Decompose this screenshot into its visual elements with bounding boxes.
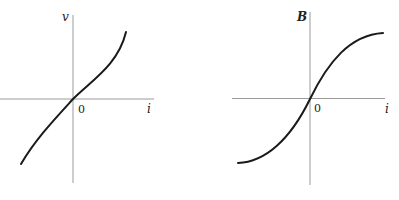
right-diagram: B 0 i <box>232 10 389 185</box>
figure: v 0 i B 0 i <box>0 0 399 200</box>
left-x-label: i <box>147 102 151 116</box>
right-x-label: i <box>385 102 389 116</box>
left-diagram: v 0 i <box>0 10 154 183</box>
left-origin-label: 0 <box>78 103 85 116</box>
left-y-label: v <box>62 10 69 24</box>
right-y-label: B <box>296 10 307 24</box>
right-origin-label: 0 <box>314 102 321 115</box>
